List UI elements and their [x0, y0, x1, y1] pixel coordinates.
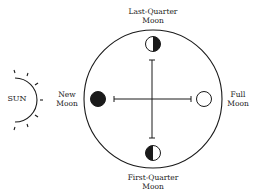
- sun-ray: [14, 127, 15, 130]
- last-quarter-label-line2: Moon: [118, 17, 188, 26]
- sun-ray: [14, 70, 15, 73]
- sun-label-text: SUN: [4, 95, 30, 104]
- sun-label: SUN: [4, 95, 30, 104]
- full-moon-label: Full Moon: [224, 91, 252, 108]
- full-moon-icon: [197, 92, 212, 107]
- last-quarter-moon-icon: [146, 37, 161, 52]
- moon-phase-diagram: SUN Last-Quarter Moon New Moon Full Moon…: [0, 0, 256, 196]
- sun-ray: [35, 83, 38, 85]
- new-moon-label-line2: Moon: [55, 100, 79, 109]
- axis-cross: [114, 60, 191, 138]
- last-quarter-label: Last-Quarter Moon: [118, 8, 188, 25]
- sun-ray: [27, 124, 28, 127]
- first-quarter-label-line2: Moon: [118, 183, 188, 192]
- full-moon-label-line2: Moon: [224, 100, 252, 109]
- new-moon-label: New Moon: [55, 91, 79, 108]
- diagram-canvas: [0, 0, 256, 196]
- sun-ray: [27, 73, 28, 76]
- new-moon-icon: [91, 92, 106, 107]
- first-quarter-label: First-Quarter Moon: [118, 174, 188, 191]
- first-quarter-moon-icon: [146, 146, 161, 161]
- sun-ray: [35, 115, 38, 117]
